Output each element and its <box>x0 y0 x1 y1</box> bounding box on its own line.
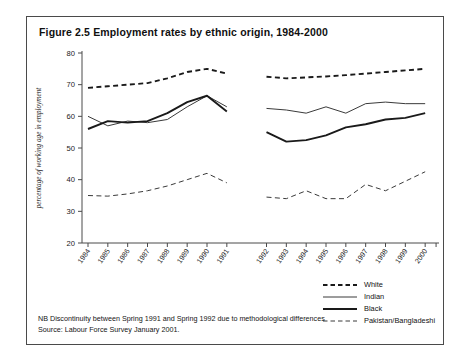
legend-item: White <box>323 279 453 290</box>
y-tick-label: 30 <box>67 207 75 216</box>
legend-item-label: White <box>364 280 383 289</box>
series-line <box>267 172 426 199</box>
legend-line-swatch <box>323 281 357 289</box>
legend-item: Black <box>323 303 453 314</box>
figure-container: Figure 2.5 Employment rates by ethnic or… <box>26 16 444 345</box>
line-chart-svg: 20304050607080percentage of working age … <box>27 43 443 288</box>
x-tick-label: 1997 <box>353 247 370 265</box>
y-tick-label: 20 <box>67 239 75 248</box>
legend-line-swatch <box>323 305 357 313</box>
x-tick-label: 1993 <box>274 247 291 265</box>
x-tick-label: 2000 <box>413 247 430 265</box>
series-line <box>88 69 227 88</box>
x-tick-label: 1994 <box>294 247 311 265</box>
series-line <box>267 113 426 141</box>
series-line <box>267 102 426 113</box>
footnotes-block: NB Discontinuity between Spring 1991 and… <box>38 314 378 335</box>
y-axis-title: percentage of working age in employment <box>35 87 43 209</box>
x-tick-label: 1995 <box>314 247 331 265</box>
legend-item-label: Black <box>364 304 382 313</box>
series-line <box>267 69 426 78</box>
x-tick-label: 1988 <box>155 247 172 265</box>
y-tick-label: 80 <box>67 49 75 58</box>
series-line <box>88 173 227 196</box>
chart-series-group <box>88 69 425 199</box>
x-tick-label: 1992 <box>254 247 271 265</box>
x-tick-label: 1996 <box>333 247 350 265</box>
x-tick-label: 1999 <box>393 247 410 265</box>
series-pakistan-bangladeshi <box>88 172 425 199</box>
x-tick-label: 1998 <box>373 247 390 265</box>
series-white <box>88 69 425 88</box>
x-tick-label: 1986 <box>115 247 132 265</box>
y-tick-label: 50 <box>67 144 75 153</box>
x-tick-label: 1984 <box>76 247 93 265</box>
footnote-discontinuity: NB Discontinuity between Spring 1991 and… <box>38 314 378 325</box>
y-tick-label: 60 <box>67 112 75 121</box>
y-tick-label: 70 <box>67 80 75 89</box>
y-tick-label: 40 <box>67 175 75 184</box>
legend-item: Indian <box>323 291 453 302</box>
legend-item-label: Indian <box>364 292 384 301</box>
footnote-source: Source: Labour Force Survey January 2001… <box>38 325 378 336</box>
x-tick-label: 1990 <box>195 247 212 265</box>
chart-plot-area: 20304050607080percentage of working age … <box>27 43 443 288</box>
legend-line-swatch <box>323 293 357 301</box>
series-line <box>88 96 227 129</box>
x-tick-label: 1987 <box>135 247 152 265</box>
x-tick-label: 1985 <box>95 247 112 265</box>
chart-axes: 20304050607080percentage of working age … <box>35 49 439 265</box>
x-tick-label: 1989 <box>175 247 192 265</box>
figure-title: Figure 2.5 Employment rates by ethnic or… <box>39 26 328 38</box>
x-tick-label: 1991 <box>214 247 231 265</box>
